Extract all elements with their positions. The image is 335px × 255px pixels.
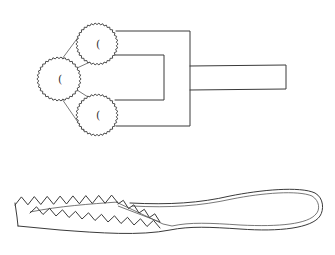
inner-bracket	[115, 55, 164, 100]
gear-mark: (	[96, 38, 100, 51]
gear-mark: (	[96, 109, 100, 122]
lower-teeth	[30, 207, 160, 228]
gear-cutter-tool: (((	[37, 23, 286, 136]
diagram-canvas: (((	[0, 0, 335, 255]
serrated-tongs-tool	[15, 189, 323, 233]
gears: (((	[37, 23, 118, 136]
gear-mark: (	[58, 73, 62, 86]
tongs-jaw-edge	[15, 203, 18, 226]
outer-bracket	[116, 31, 190, 126]
illustration: (((	[0, 0, 335, 255]
handle	[190, 65, 286, 90]
tongs-handle-inner	[132, 193, 319, 226]
